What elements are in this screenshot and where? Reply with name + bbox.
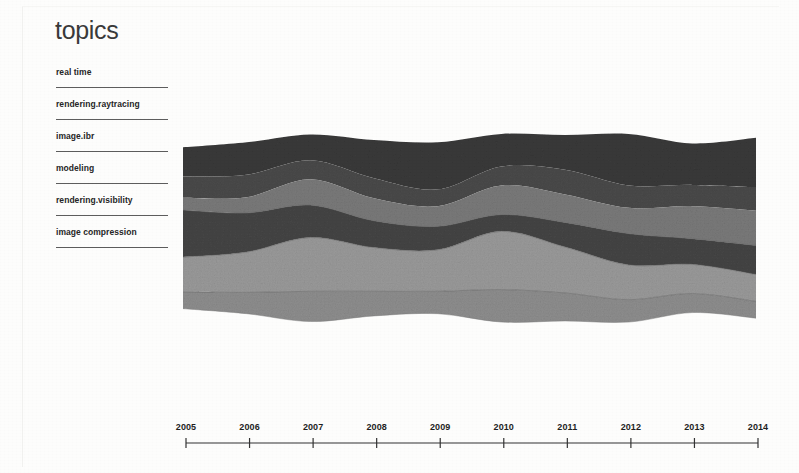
axis-tick-label: 2012 (621, 422, 641, 432)
axis-tick-label: 2008 (366, 422, 386, 432)
axis-tick-label: 2007 (303, 422, 323, 432)
axis-tick-label: 2009 (430, 422, 450, 432)
axis-tick-label: 2010 (494, 422, 514, 432)
axis-tick-label: 2005 (176, 422, 196, 432)
streamgraph-figure: topics real time rendering.raytracing im… (0, 0, 799, 473)
axis-tick-label: 2011 (557, 422, 577, 432)
axis-tick-label: 2013 (684, 422, 704, 432)
axis-tick-label: 2006 (239, 422, 259, 432)
axis-line-group (186, 438, 758, 448)
x-axis: 2005200620072008200920102011201220132014 (0, 0, 799, 473)
axis-tick-label: 2014 (748, 422, 768, 432)
